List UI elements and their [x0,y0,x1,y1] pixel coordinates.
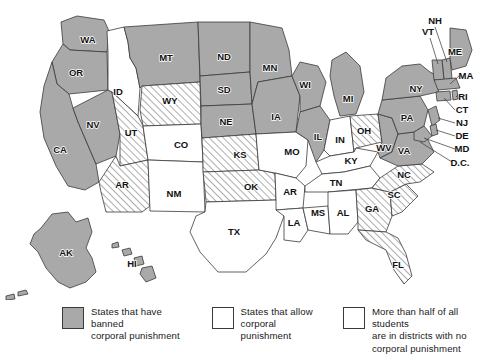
state-HI-isl4 [140,266,156,282]
state-MI[interactable] [330,52,364,116]
state-label-NV: NV [86,119,100,130]
state-label-NM: NM [167,188,182,199]
state-label-MS: MS [311,207,325,218]
state-label-WI: WI [299,79,311,90]
state-NM[interactable] [148,160,205,212]
state-label-OR: OR [69,67,83,78]
legend-swatch-banned-icon [62,307,84,329]
state-label-GA: GA [365,203,379,214]
state-OK[interactable] [203,170,276,202]
state-KS[interactable] [202,134,259,172]
legend-item-banned: States that have banned corporal punishm… [62,306,188,343]
state-label-ME: ME [448,46,462,57]
legend-swatch-hatched-icon [343,307,365,329]
state-label-MT: MT [159,52,173,63]
legend-item-hatched: More than half of all students are in di… [343,306,487,355]
state-label-HI: HI [127,258,137,269]
state-label-CO: CO [174,139,188,150]
us-choropleth-map: WAORCANVIDMTWYUTARCONMNDSDNEKSOKTXMNIAMO… [0,0,487,300]
state-RI-shape[interactable] [452,90,458,100]
state-HI-isl2 [122,248,132,256]
callout-label-VT: VT [422,26,434,37]
legend-swatch-allow-icon [212,307,234,329]
state-label-ND: ND [217,51,231,62]
state-label-AZ: AR [115,179,129,190]
state-CT-shape[interactable] [436,91,451,101]
state-label-IA: IA [271,111,281,122]
state-IA[interactable] [252,76,300,134]
callout-label-MA: MA [459,70,474,81]
state-label-FL: FL [392,259,404,270]
state-label-NY: NY [409,83,423,94]
callout-label-RI: RI [458,91,468,102]
callout-label-DE: DE [455,130,468,141]
state-label-LA: LA [288,217,301,228]
state-label-IN: IN [335,134,345,145]
state-ND[interactable] [198,22,250,76]
state-label-WY: WY [162,95,178,106]
state-label-WV: WV [376,142,392,153]
state-label-AL: AL [337,207,350,218]
state-AK-isl1 [18,290,28,296]
state-label-WA: WA [80,34,95,45]
state-label-SC: SC [387,189,400,200]
state-label-MN: MN [263,62,278,73]
state-label-AR: AR [283,186,297,197]
state-label-CA: CA [53,144,67,155]
us-map-container: WAORCANVIDMTWYUTARCONMNDSDNEKSOKTXMNIAMO… [0,0,487,300]
state-label-NE: NE [219,116,232,127]
state-label-IL: IL [314,131,323,142]
callout-label-MD: MD [455,143,470,154]
state-HI-isl1 [112,242,119,248]
state-label-VA: VA [398,145,411,156]
callout-label-CT: CT [456,104,469,115]
state-label-OK: OK [244,181,258,192]
state-MA-shape[interactable] [434,78,460,90]
state-FL[interactable] [358,230,412,284]
state-MO[interactable] [256,132,308,178]
map-legend: States that have banned corporal punishm… [0,300,487,362]
state-label-MO: MO [284,146,299,157]
state-label-OH: OH [357,125,371,136]
callout-label-NH: NH [428,15,442,26]
state-label-TX: TX [228,226,241,237]
state-label-KS: KS [233,149,246,160]
legend-label-hatched: More than half of all students are in di… [372,306,487,355]
state-label-AK: AK [59,247,73,258]
state-label-TN: TN [330,177,343,188]
state-label-PA: PA [401,112,414,123]
callout-label-NJ: NJ [456,117,468,128]
callout-label-DC: D.C. [451,157,470,168]
state-label-NC: NC [397,169,411,180]
state-label-KY: KY [344,155,358,166]
state-label-SD: SD [217,84,230,95]
state-label-MI: MI [343,93,354,104]
state-label-UT: UT [125,127,138,138]
state-label-ID: ID [113,86,123,97]
legend-item-allow: States that allow corporal punishment [212,306,321,343]
legend-label-banned: States that have banned corporal punishm… [91,306,188,343]
legend-label-allow: States that allow corporal punishment [241,306,321,343]
state-NJ-shape[interactable] [428,106,440,126]
